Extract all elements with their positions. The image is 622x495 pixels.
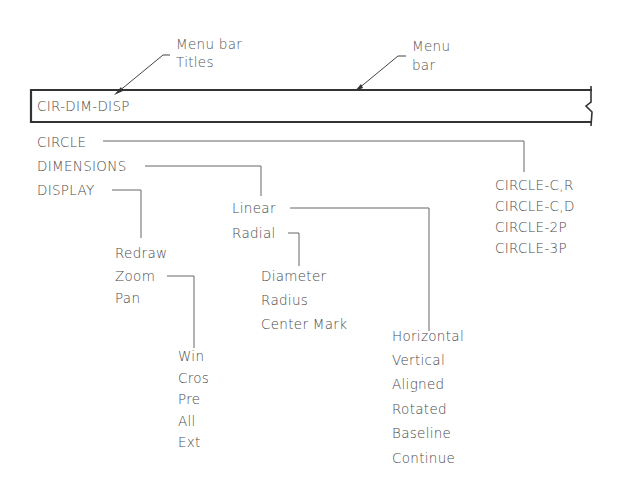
dimensions-option-radial[interactable]: Radial — [232, 225, 276, 241]
radial-option-radius[interactable]: Radius — [261, 292, 308, 308]
display-option-redraw[interactable]: Redraw — [115, 245, 167, 261]
zoom-connector — [167, 276, 194, 348]
menu-item-circle[interactable]: CIRCLE — [37, 134, 86, 150]
menu-item-dimensions[interactable]: DIMENSIONS — [37, 158, 127, 174]
linear-option-horizontal[interactable]: Horizontal — [392, 328, 464, 344]
linear-option-aligned[interactable]: Aligned — [392, 376, 444, 392]
linear-option-baseline[interactable]: Baseline — [392, 425, 451, 441]
break-symbol — [586, 86, 592, 126]
linear-option-continue[interactable]: Continue — [392, 450, 455, 466]
leader-menu-bar — [358, 56, 406, 89]
display-option-pan[interactable]: Pan — [115, 290, 140, 306]
callout-menu-bar-line2: bar — [412, 57, 435, 73]
menu-bar-title[interactable]: CIR-DIM-DISP — [37, 98, 130, 114]
zoom-option-cros[interactable]: Cros — [178, 370, 209, 386]
leader-menu-bar-titles — [118, 55, 170, 92]
linear-option-rotated[interactable]: Rotated — [392, 401, 447, 417]
circle-connector — [103, 141, 524, 172]
display-option-zoom[interactable]: Zoom — [115, 268, 155, 284]
dimensions-option-linear[interactable]: Linear — [232, 200, 276, 216]
callout-menu-bar-titles-line2: Titles — [176, 54, 214, 70]
radial-connector — [288, 233, 299, 266]
circle-option-cr[interactable]: CIRCLE-C,R — [495, 177, 574, 193]
callout-menu-bar-titles-line1: Menu bar — [176, 36, 242, 52]
zoom-option-ext[interactable]: Ext — [178, 434, 201, 450]
circle-option-2p[interactable]: CIRCLE-2P — [495, 219, 567, 235]
radial-option-diameter[interactable]: Diameter — [261, 268, 326, 284]
dimensions-connector — [145, 166, 261, 196]
circle-option-cd[interactable]: CIRCLE-C,D — [495, 198, 575, 214]
callout-menu-bar-line1: Menu — [412, 38, 450, 54]
zoom-option-win[interactable]: Win — [178, 348, 204, 364]
circle-option-3p[interactable]: CIRCLE-3P — [495, 240, 567, 256]
linear-option-vertical[interactable]: Vertical — [392, 352, 445, 368]
display-connector — [112, 190, 141, 238]
zoom-option-all[interactable]: All — [178, 413, 196, 429]
menu-item-display[interactable]: DISPLAY — [37, 182, 94, 198]
zoom-option-pre[interactable]: Pre — [178, 391, 200, 407]
radial-option-center-mark[interactable]: Center Mark — [261, 316, 347, 332]
